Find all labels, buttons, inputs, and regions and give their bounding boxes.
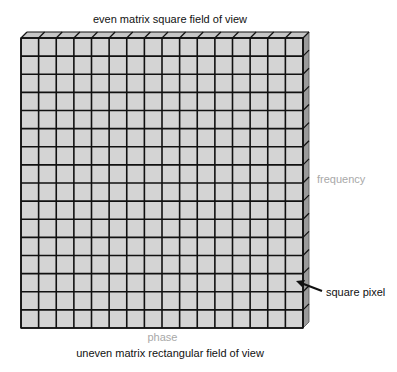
diagram-title: even matrix square field of view: [0, 13, 340, 26]
frequency-axis-label: frequency: [317, 173, 365, 186]
diagram-subtitle: uneven matrix rectangular field of view: [0, 347, 340, 360]
pixel-grid-3d: [0, 0, 397, 372]
matrix-diagram: even matrix square field of view frequen…: [0, 0, 397, 372]
phase-axis-label: phase: [0, 331, 325, 344]
square-pixel-label: square pixel: [326, 286, 385, 299]
